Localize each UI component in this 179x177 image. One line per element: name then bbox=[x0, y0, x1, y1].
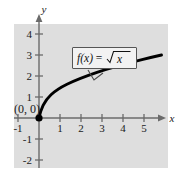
y-tick-label: 2 bbox=[27, 70, 33, 82]
y-axis-arrow-icon bbox=[36, 14, 43, 22]
x-tick-label: 5 bbox=[141, 122, 147, 134]
y-tick-label: 4 bbox=[27, 28, 33, 40]
plot-background bbox=[14, 24, 168, 168]
function-name-text: f(x) bbox=[77, 52, 93, 65]
x-tick-label: 2 bbox=[78, 122, 84, 134]
origin-point-label: (0, 0) bbox=[14, 102, 40, 116]
y-tick-label: -2 bbox=[23, 154, 32, 166]
x-tick-label: 3 bbox=[99, 122, 105, 134]
graph-canvas: -1 1 2 3 4 5 -2 -1 1 2 3 4 x y (0, 0) bbox=[0, 0, 179, 177]
function-equals-sign: = bbox=[96, 52, 103, 64]
y-tick-label: 3 bbox=[27, 49, 33, 61]
x-tick-label: 1 bbox=[57, 122, 63, 134]
x-axis-label: x bbox=[169, 112, 175, 124]
function-graph-figure: -1 1 2 3 4 5 -2 -1 1 2 3 4 x y (0, 0) bbox=[0, 0, 179, 177]
y-axis-label: y bbox=[41, 3, 47, 15]
radicand-text: x bbox=[116, 53, 123, 65]
function-label-callout: f(x) = x bbox=[73, 48, 137, 69]
x-tick-label: -1 bbox=[13, 122, 22, 134]
x-tick-label: 4 bbox=[120, 122, 126, 134]
y-tick-label: -1 bbox=[23, 133, 32, 145]
